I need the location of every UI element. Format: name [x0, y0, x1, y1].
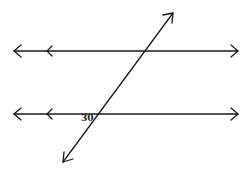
top-parallel-line	[14, 45, 238, 57]
diagram-canvas: 30	[0, 0, 251, 175]
bottom-parallel-line	[14, 108, 238, 120]
transversal-line	[63, 13, 173, 162]
angle-label: 30	[81, 113, 94, 123]
